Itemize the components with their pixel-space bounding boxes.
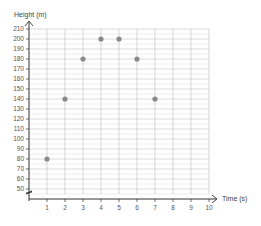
y-tick-label: 130 [13, 105, 24, 112]
x-tick-label: 8 [171, 204, 175, 211]
y-tick-label: 50 [17, 185, 25, 192]
x-tick-label: 4 [99, 204, 103, 211]
scatter-chart: 5060708090100110120130140150160170180190… [0, 0, 261, 226]
y-tick-label: 80 [17, 155, 25, 162]
x-tick-label: 1 [45, 204, 49, 211]
x-tick-label: 2 [63, 204, 67, 211]
y-tick-label: 60 [17, 175, 25, 182]
y-tick-labels: 5060708090100110120130140150160170180190… [13, 25, 29, 192]
y-tick-label: 100 [13, 135, 24, 142]
y-tick-label: 190 [13, 45, 24, 52]
y-tick-label: 90 [17, 145, 25, 152]
x-tick-labels: 12345678910 [45, 199, 213, 211]
x-tick-label: 6 [135, 204, 139, 211]
y-tick-label: 200 [13, 35, 24, 42]
axes [25, 21, 217, 203]
data-point [98, 36, 103, 41]
x-tick-label: 3 [81, 204, 85, 211]
data-point [134, 56, 139, 61]
y-tick-label: 120 [13, 115, 24, 122]
data-point [152, 96, 157, 101]
y-tick-label: 150 [13, 85, 24, 92]
y-tick-label: 210 [13, 25, 24, 32]
x-tick-label: 10 [205, 204, 213, 211]
y-tick-label: 160 [13, 75, 24, 82]
data-point [44, 156, 49, 161]
x-tick-label: 9 [189, 204, 193, 211]
y-tick-label: 180 [13, 55, 24, 62]
y-tick-label: 70 [17, 165, 25, 172]
x-tick-label: 5 [117, 204, 121, 211]
y-tick-label: 140 [13, 95, 24, 102]
data-point [116, 36, 121, 41]
x-axis-label: Time (s) [222, 195, 247, 203]
y-tick-label: 110 [14, 125, 25, 132]
y-tick-label: 170 [13, 65, 24, 72]
y-axis-label: Height (m) [14, 11, 47, 19]
grid-lines [29, 29, 209, 194]
x-tick-label: 7 [153, 204, 157, 211]
data-point [62, 96, 67, 101]
data-point [80, 56, 85, 61]
